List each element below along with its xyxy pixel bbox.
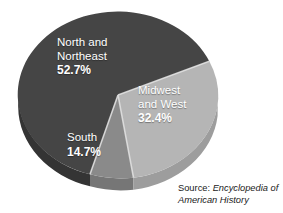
pie-top-face [18,12,219,179]
pie-chart-graphic [0,0,283,213]
pie-chart-figure: North and Northeast 52.7% Midwest and We… [0,0,283,213]
source-title-line1: Encyclopedia of [213,183,279,193]
source-note: Source: Encyclopedia of American History [178,183,282,207]
source-title-line2: American History [178,195,249,205]
source-prefix: Source: [178,183,213,193]
